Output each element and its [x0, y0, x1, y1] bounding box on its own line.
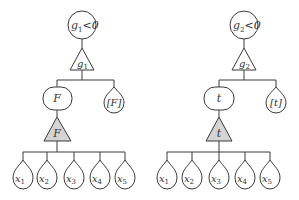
leaf-row: x1 x2 x3 x4 x5 [13, 160, 135, 189]
root-label: g2<0 [233, 19, 261, 34]
tree-left: g1<0 g1 F [F] F x1 x2 x3 x4 x5 [13, 11, 135, 189]
root-label: g1<0 [71, 19, 99, 34]
mid-label: F [52, 92, 61, 105]
mid-label: t [217, 92, 222, 105]
mid-operator-label: t [217, 127, 222, 140]
side-leaf-label: [F] [107, 97, 122, 108]
leaf-row: x1 x2 x3 x4 x5 [157, 160, 280, 189]
mid-operator-label: F [52, 127, 61, 140]
side-leaf-label: [t] [270, 97, 282, 108]
tree-right: g2<0 g2 t [t] t x1 x2 x3 x4 x5 [157, 11, 286, 189]
tree-diagram: g1<0 g1 F [F] F x1 x2 x3 x4 x5 [0, 0, 299, 200]
